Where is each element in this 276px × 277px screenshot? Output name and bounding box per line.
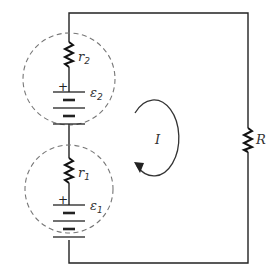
battery-emf1-icon <box>53 205 85 237</box>
label-r1: r1 <box>78 165 90 182</box>
battery-emf2-icon <box>53 92 85 124</box>
label-emf2: ε2 <box>90 85 103 102</box>
polarity-plus-emf1: + <box>58 193 68 207</box>
resistor-r1-icon <box>65 158 73 183</box>
circuit-diagram: r2 + ε2 r1 + ε1 R I <box>0 0 276 277</box>
polarity-plus-emf2: + <box>58 80 68 94</box>
label-R: R <box>255 132 266 147</box>
label-r2: r2 <box>78 49 90 66</box>
label-emf1: ε1 <box>90 198 103 215</box>
label-current-I: I <box>154 132 161 147</box>
resistor-r2-icon <box>65 42 73 67</box>
resistor-R-icon <box>244 128 252 152</box>
